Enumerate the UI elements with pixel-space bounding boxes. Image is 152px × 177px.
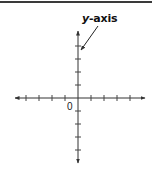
axis-variable: y bbox=[82, 12, 89, 25]
coordinate-plane bbox=[0, 0, 152, 177]
y-axis-label: y-axis bbox=[82, 12, 117, 25]
axis-suffix: -axis bbox=[89, 12, 117, 25]
origin-label: 0 bbox=[67, 101, 73, 112]
callout-arrow bbox=[81, 26, 98, 50]
y-axis bbox=[75, 31, 81, 163]
x-axis bbox=[15, 95, 145, 101]
